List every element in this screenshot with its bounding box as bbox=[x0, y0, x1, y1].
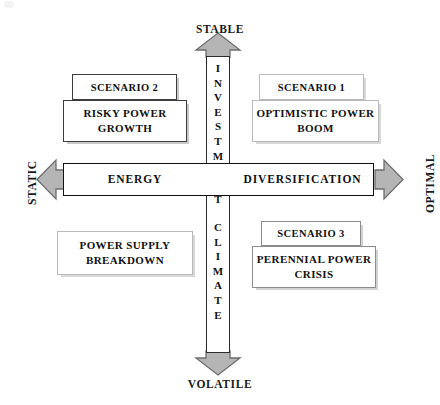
v-letter: E bbox=[214, 308, 221, 323]
scenario-1-tab[interactable]: SCENARIO 1 bbox=[259, 74, 364, 100]
arrow-left-icon bbox=[36, 157, 66, 202]
v-letter: T bbox=[214, 293, 221, 308]
scenario-matrix-diagram: STABLE VOLATILE STATIC OPTIMAL I N V E S… bbox=[0, 0, 440, 405]
v-letter: M bbox=[213, 264, 223, 279]
v-letter: A bbox=[214, 278, 222, 293]
v-letter: N bbox=[214, 76, 222, 91]
arrow-down-icon bbox=[194, 350, 242, 376]
v-letter: T bbox=[214, 134, 221, 149]
v-letter: L bbox=[214, 235, 221, 250]
horizontal-axis-label-energy: ENERGY bbox=[63, 170, 207, 189]
scenario-2-body[interactable]: RISKY POWER GROWTH bbox=[63, 100, 187, 142]
v-letter: I bbox=[216, 61, 220, 76]
scenario-1-body[interactable]: OPTIMISTIC POWER BOOM bbox=[252, 100, 379, 142]
v-letter: M bbox=[213, 149, 223, 164]
scan-artifact bbox=[4, 1, 14, 8]
scenario-2-tab[interactable]: SCENARIO 2 bbox=[72, 74, 177, 100]
scenario-3-tab[interactable]: SCENARIO 3 bbox=[261, 221, 361, 246]
v-letter: V bbox=[214, 90, 222, 105]
power-supply-breakdown-body[interactable]: POWER SUPPLY BREAKDOWN bbox=[57, 231, 193, 275]
arrow-right-icon bbox=[374, 157, 404, 202]
arrow-up-icon bbox=[194, 32, 242, 58]
scenario-3-body[interactable]: PERENNIAL POWER CRISIS bbox=[252, 246, 376, 288]
v-letter: E bbox=[214, 105, 221, 120]
axis-label-volatile: VOLATILE bbox=[0, 378, 440, 390]
axis-label-optimal: OPTIMAL bbox=[424, 154, 436, 213]
horizontal-axis-label-diversification: DIVERSIFICATION bbox=[231, 170, 374, 189]
v-letter: C bbox=[214, 220, 222, 235]
v-letter: S bbox=[215, 119, 221, 134]
vertical-axis-investment-climate: I N V E S T M E N T C L I M A T E bbox=[206, 56, 230, 353]
v-letter: I bbox=[216, 249, 220, 264]
